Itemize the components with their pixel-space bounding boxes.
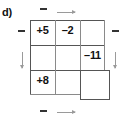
grid-cell-r0c0[interactable]: +5	[30, 20, 55, 45]
left-arrow-down-icon	[22, 52, 23, 68]
minus-icon	[112, 30, 119, 32]
grid-cell-r1c2[interactable]: –11	[80, 45, 105, 70]
grid-cell-value: –11	[80, 49, 105, 62]
part-label: d)	[2, 6, 12, 18]
grid-cell-r2c0[interactable]: +8	[30, 70, 55, 95]
top-arrow-right-icon	[57, 12, 75, 13]
grid-cell-r0c1[interactable]: –2	[55, 20, 80, 45]
bottom-arrow-right-icon	[57, 112, 75, 113]
grid-cell-r1c1[interactable]	[55, 45, 80, 70]
minus-icon	[40, 8, 47, 10]
right-arrow-down-icon	[115, 52, 116, 68]
minus-icon	[40, 110, 47, 112]
grid-cell-value: +5	[30, 24, 55, 37]
minus-icon	[18, 30, 25, 32]
grid-cell-value: –2	[55, 24, 80, 37]
grid-cell-value: +8	[30, 74, 55, 87]
figure-root: d) +5 –2	[0, 0, 126, 124]
grid-cell-r1c0[interactable]	[30, 45, 55, 70]
grid-cell-r2c1[interactable]	[55, 70, 80, 95]
grid-cell-r0c2[interactable]	[80, 20, 105, 45]
grid-cell-offset-bottom-right[interactable]	[80, 70, 110, 100]
